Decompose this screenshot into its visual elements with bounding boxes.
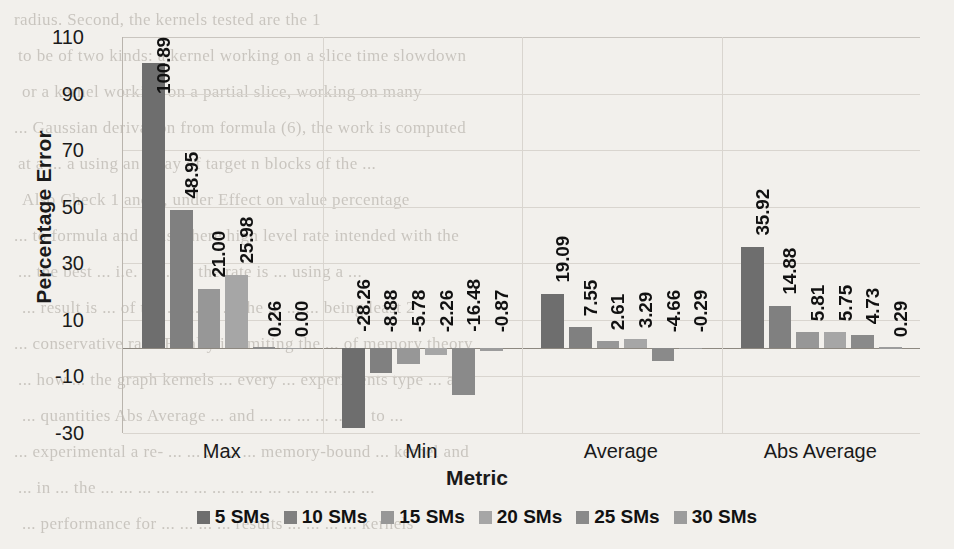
bar-value-label: -8.88 (381, 290, 400, 332)
bar (541, 294, 564, 348)
bar (253, 347, 276, 348)
bar-value-label: 7.55 (581, 280, 600, 316)
bar-value-label: -5.78 (409, 290, 428, 332)
bar-value-label: -16.48 (464, 279, 483, 332)
bar-value-label: 4.73 (863, 288, 882, 324)
bar (370, 348, 393, 373)
legend-item: 30 SMs (674, 506, 757, 528)
bar-group: 19.097.552.613.29-4.66-0.29 (522, 37, 722, 433)
bar (452, 348, 475, 395)
bar-value-label: 0.00 (292, 301, 311, 337)
legend-label: 5 SMs (215, 506, 270, 528)
y-axis-tick-label: 50 (22, 195, 92, 218)
legend-color-swatch (576, 511, 589, 524)
bar-value-label: -28.26 (354, 279, 373, 332)
bar-group: 35.9214.885.815.754.730.29 (722, 37, 922, 433)
bar (569, 327, 592, 348)
bar (425, 348, 448, 354)
legend-color-swatch (284, 511, 297, 524)
bar-value-label: -4.66 (664, 290, 683, 332)
grouped-bar-chart: Percentage Error Metric 1109070503010-10… (0, 0, 954, 549)
bar-value-label: 0.26 (265, 301, 284, 337)
bar-group: 100.8948.9521.0025.980.260.00 (123, 37, 323, 433)
legend-color-swatch (674, 511, 687, 524)
y-axis-tick-label: -30 (22, 422, 92, 445)
bar-value-label: 21.00 (209, 231, 228, 278)
y-axis-tick-label: 90 (22, 82, 92, 105)
y-axis-tick-label: 10 (22, 308, 92, 331)
bar (397, 348, 420, 364)
bar-value-label: 14.88 (780, 248, 799, 295)
bar-value-label: 19.09 (553, 236, 572, 283)
y-axis-tick-label: -10 (22, 365, 92, 388)
legend-item: 25 SMs (576, 506, 659, 528)
bar (824, 332, 847, 348)
bar-value-label: 48.95 (182, 152, 201, 199)
chart-legend: 5 SMs10 SMs15 SMs20 SMs25 SMs30 SMs (0, 506, 954, 528)
bar-value-label: 2.61 (608, 294, 627, 330)
bar-value-label: -2.26 (437, 290, 456, 332)
grid-line (123, 433, 920, 434)
bar (280, 348, 303, 349)
bar (879, 347, 902, 348)
bar-value-label: 35.92 (753, 189, 772, 236)
bar (142, 63, 165, 348)
bar-value-label: -0.29 (691, 290, 710, 332)
bar (769, 306, 792, 348)
x-axis-title: Metric (0, 466, 954, 490)
legend-label: 20 SMs (497, 506, 562, 528)
legend-color-swatch (479, 511, 492, 524)
bar (796, 332, 819, 348)
legend-label: 25 SMs (594, 506, 659, 528)
x-axis-tick-label: Average (521, 440, 721, 463)
legend-item: 15 SMs (381, 506, 464, 528)
bar (198, 289, 221, 348)
bar-value-label: 0.29 (891, 301, 910, 337)
legend-label: 10 SMs (302, 506, 367, 528)
legend-label: 15 SMs (399, 506, 464, 528)
bar (480, 348, 503, 350)
legend-label: 30 SMs (692, 506, 757, 528)
bar-value-label: 5.75 (836, 285, 855, 321)
bar (652, 348, 675, 361)
x-axis-tick-label: Min (322, 440, 522, 463)
plot-area: 100.8948.9521.0025.980.260.00-28.26-8.88… (122, 37, 920, 433)
legend-color-swatch (381, 511, 394, 524)
bar (597, 341, 620, 348)
bar (624, 339, 647, 348)
bar (342, 348, 365, 428)
bar (170, 210, 193, 348)
legend-item: 5 SMs (197, 506, 270, 528)
bar-value-label: 3.29 (636, 292, 655, 328)
bar (225, 275, 248, 348)
x-axis-tick-label: Abs Average (721, 440, 921, 463)
y-axis-tick-label: 30 (22, 252, 92, 275)
bar-value-label: 25.98 (237, 217, 256, 264)
bar (679, 348, 702, 349)
y-axis-tick-label: 70 (22, 139, 92, 162)
bar-value-label: 100.89 (154, 37, 173, 94)
bar (851, 335, 874, 348)
legend-color-swatch (197, 511, 210, 524)
legend-item: 20 SMs (479, 506, 562, 528)
legend-item: 10 SMs (284, 506, 367, 528)
x-axis-tick-label: Max (122, 440, 322, 463)
bar-group: -28.26-8.88-5.78-2.26-16.48-0.87 (323, 37, 523, 433)
y-axis-tick-label: 110 (22, 26, 92, 49)
bar (741, 247, 764, 349)
bar-value-label: 5.81 (808, 285, 827, 321)
bar-value-label: -0.87 (492, 290, 511, 332)
